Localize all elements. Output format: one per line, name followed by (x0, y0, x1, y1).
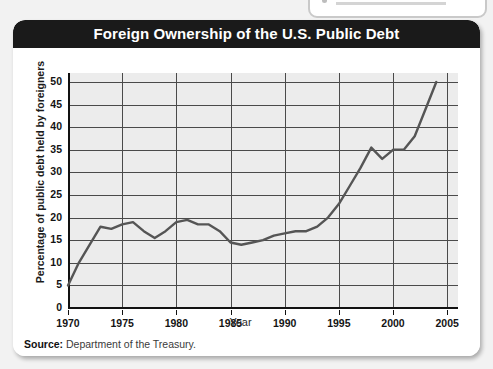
source-note: Source: Department of the Treasury. (24, 338, 196, 350)
gridline-horizontal (68, 127, 458, 128)
gridline-horizontal (68, 218, 458, 219)
y-tick-label: 45 (32, 98, 62, 110)
gridline-horizontal (68, 240, 458, 241)
x-tick-mark (447, 310, 448, 315)
gridline-horizontal (68, 82, 458, 83)
gridline-vertical (285, 73, 286, 308)
gridline-vertical (393, 73, 394, 308)
gridline-horizontal (68, 150, 458, 151)
stub-line (336, 2, 446, 5)
y-axis-line (68, 73, 70, 309)
x-tick-mark (231, 310, 232, 315)
chart-title: Foreign Ownership of the U.S. Public Deb… (13, 20, 480, 48)
chart-area: Percentage of public debt held by foreig… (13, 48, 480, 338)
x-tick-mark (285, 310, 286, 315)
gridline-vertical (122, 73, 123, 308)
gridline-vertical (176, 73, 177, 308)
gridline-horizontal (68, 105, 458, 106)
gridline-vertical (447, 73, 448, 308)
x-tick-mark (339, 310, 340, 315)
x-tick-label: 2005 (425, 317, 469, 329)
y-tick-label: 15 (32, 233, 62, 245)
gridline-horizontal (68, 263, 458, 264)
stub-dot-icon (322, 0, 327, 3)
source-label: Source: (24, 338, 63, 350)
source-text: Department of the Treasury. (63, 338, 196, 350)
plot-background (68, 73, 458, 308)
y-tick-label: 40 (32, 120, 62, 132)
gridline-horizontal (68, 195, 458, 196)
y-tick-label: 30 (32, 165, 62, 177)
x-tick-mark (68, 310, 69, 315)
y-tick-label: 0 (32, 301, 62, 313)
x-axis-title: Year (68, 316, 413, 328)
x-tick-mark (393, 310, 394, 315)
y-tick-label: 50 (32, 75, 62, 87)
x-tick-mark (176, 310, 177, 315)
gridline-horizontal (68, 285, 458, 286)
x-axis-line (68, 307, 458, 309)
chart-body: Percentage of public debt held by foreig… (13, 48, 480, 356)
gridline-vertical (339, 73, 340, 308)
y-tick-label: 10 (32, 256, 62, 268)
y-tick-label: 25 (32, 188, 62, 200)
gridline-vertical (231, 73, 232, 308)
chart-card: Foreign Ownership of the U.S. Public Deb… (13, 20, 480, 356)
x-tick-mark (122, 310, 123, 315)
screenshot-root: Foreign Ownership of the U.S. Public Deb… (0, 0, 493, 369)
gridline-horizontal (68, 172, 458, 173)
y-tick-label: 20 (32, 211, 62, 223)
y-tick-label: 35 (32, 143, 62, 155)
y-tick-label: 5 (32, 278, 62, 290)
partial-toolbar-stub (308, 0, 487, 18)
